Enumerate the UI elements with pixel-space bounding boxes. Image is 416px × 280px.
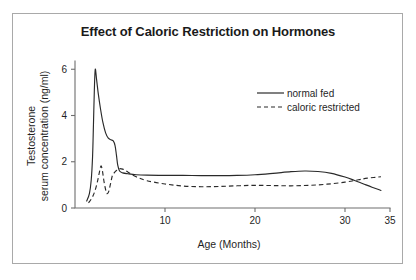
- x-tick-label: 35: [384, 215, 396, 226]
- y-tick-label: 0: [61, 203, 67, 214]
- y-tick-label: 2: [61, 156, 67, 167]
- y-tick-label: 4: [61, 110, 67, 121]
- y-tick-label: 6: [61, 64, 67, 75]
- x-tick-label: 10: [159, 215, 171, 226]
- y-axis-title-line1: Testosterone: [25, 106, 37, 166]
- y-axis-ticks: [71, 69, 75, 208]
- y-axis-title-line2: serum concentration (ng/ml): [38, 71, 50, 202]
- chart-plot-area: 0246 10203035 Age (Months) Testosterone …: [0, 0, 416, 280]
- x-tick-label: 30: [339, 215, 351, 226]
- x-tick-label: 20: [249, 215, 261, 226]
- y-axis-tick-labels: 0246: [61, 64, 67, 214]
- x-axis-title: Age (Months): [197, 238, 260, 250]
- figure-root: Effect of Caloric Restriction on Hormone…: [0, 0, 416, 280]
- data-series-group: [87, 69, 381, 203]
- x-axis-ticks: [165, 208, 390, 212]
- series-line-normal-fed: [87, 69, 381, 201]
- axes-group: [71, 61, 390, 212]
- x-axis-tick-labels: 10203035: [159, 215, 396, 226]
- legend-label: normal fed: [287, 88, 334, 99]
- chart-legend: normal fedcaloric restricted: [257, 88, 360, 113]
- legend-label: caloric restricted: [287, 102, 360, 113]
- series-line-caloric-restricted: [89, 166, 382, 203]
